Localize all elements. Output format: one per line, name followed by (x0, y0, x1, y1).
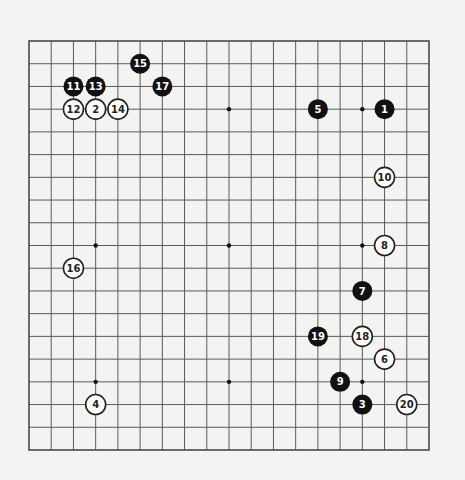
move-number: 17 (155, 81, 169, 92)
stone-white-20: 20 (397, 395, 417, 415)
stone-black-13: 13 (86, 76, 106, 96)
stone-black-17: 17 (152, 76, 172, 96)
stone-black-9: 9 (330, 372, 350, 392)
stone-white-18: 18 (352, 326, 372, 346)
move-number: 12 (66, 104, 80, 115)
move-number: 16 (66, 263, 80, 274)
star-point (360, 107, 364, 111)
move-number: 20 (400, 399, 414, 410)
move-number: 7 (359, 286, 366, 297)
star-point (93, 380, 97, 384)
stone-white-16: 16 (63, 258, 83, 278)
move-number: 5 (314, 104, 321, 115)
star-point (360, 243, 364, 247)
stone-white-6: 6 (375, 349, 395, 369)
stone-white-2: 2 (86, 99, 106, 119)
stone-black-15: 15 (130, 54, 150, 74)
move-number: 18 (355, 331, 369, 342)
star-point (227, 107, 231, 111)
star-point (227, 243, 231, 247)
stone-black-5: 5 (308, 99, 328, 119)
move-number: 8 (381, 240, 388, 251)
move-number: 4 (92, 399, 99, 410)
move-number: 3 (359, 399, 366, 410)
stone-black-3: 3 (352, 395, 372, 415)
stone-black-1: 1 (375, 99, 395, 119)
move-number: 15 (133, 58, 147, 69)
star-point (360, 380, 364, 384)
move-number: 2 (92, 104, 99, 115)
star-point (227, 380, 231, 384)
move-number: 6 (381, 354, 388, 365)
stone-black-7: 7 (352, 281, 372, 301)
move-number: 11 (66, 81, 80, 92)
star-point (93, 243, 97, 247)
move-number: 1 (381, 104, 388, 115)
move-number: 14 (111, 104, 125, 115)
stone-black-11: 11 (63, 76, 83, 96)
stone-white-12: 12 (63, 99, 83, 119)
move-number: 19 (311, 331, 325, 342)
stone-white-4: 4 (86, 395, 106, 415)
stone-white-10: 10 (375, 167, 395, 187)
stone-white-14: 14 (108, 99, 128, 119)
stone-black-19: 19 (308, 326, 328, 346)
go-board: 1234567891011121314151617181920 (0, 0, 465, 480)
move-number: 10 (378, 172, 392, 183)
stone-white-8: 8 (375, 236, 395, 256)
move-number: 13 (89, 81, 103, 92)
move-number: 9 (337, 376, 344, 387)
